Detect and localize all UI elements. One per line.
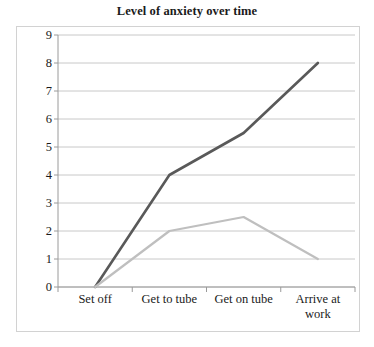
y-axis-tick-label: 6 (26, 113, 52, 125)
x-axis-tick-label: Get to tube (132, 292, 206, 307)
x-axis-tick-label: Set off (58, 292, 132, 307)
y-axis-tick-labels: 0123456789 (22, 35, 52, 287)
y-axis-tick-label: 4 (26, 169, 52, 181)
x-axis-tick-labels: Set offGet to tubeGet on tubeArrive atwo… (58, 292, 355, 336)
y-axis-tick-label: 2 (26, 225, 52, 237)
x-axis-tick-label-line: Set off (58, 292, 132, 307)
x-axis-tick-label: Get on tube (207, 292, 281, 307)
y-axis-tick-label: 5 (26, 141, 52, 153)
x-axis-tick-label-line: Get on tube (207, 292, 281, 307)
x-axis-tick-label-line: Get to tube (132, 292, 206, 307)
chart-title: Level of anxiety over time (0, 4, 374, 19)
x-axis-tick-label: Arrive atwork (281, 292, 355, 322)
y-axis-tick-label: 1 (26, 253, 52, 265)
x-axis-tick-label-line: Arrive at (281, 292, 355, 307)
y-axis-tick-label: 9 (26, 29, 52, 41)
plot-area (58, 35, 355, 287)
y-axis-tick-label: 8 (26, 57, 52, 69)
y-axis-tick-label: 7 (26, 85, 52, 97)
x-axis-tick-label-line: work (281, 307, 355, 322)
chart-container: Level of anxiety over time 0123456789 Se… (0, 0, 374, 347)
data-series (58, 35, 355, 287)
y-axis-tick-label: 0 (26, 281, 52, 293)
y-axis-tick-label: 3 (26, 197, 52, 209)
